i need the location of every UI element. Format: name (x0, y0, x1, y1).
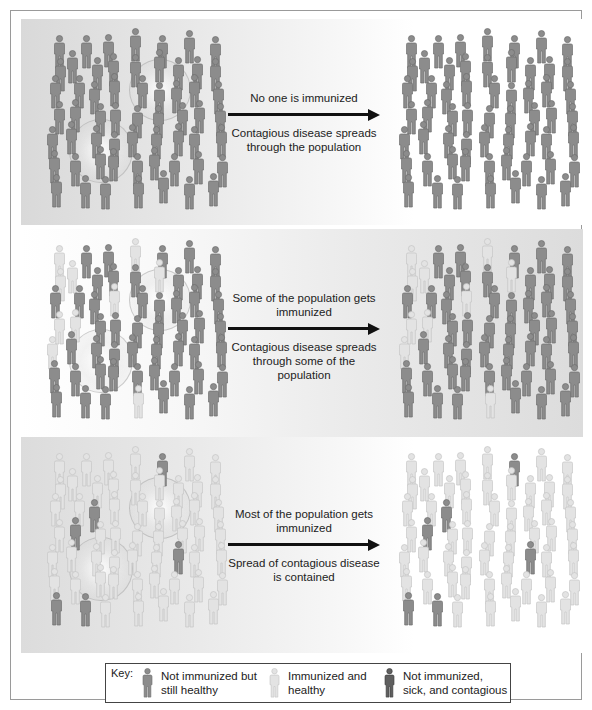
row-no-immunization: No one is immunized Contagious disease s… (21, 19, 583, 225)
person-not-immunized-icon (432, 593, 443, 627)
person-not-immunized-icon (133, 175, 144, 209)
person-immunized-icon (568, 542, 579, 576)
person-not-immunized-icon (560, 173, 571, 207)
person-not-immunized-icon (510, 170, 521, 204)
person-not-immunized-icon (100, 176, 111, 210)
person-immunized-icon (81, 453, 92, 487)
row-some-immunization: Some of the population gets immunized Co… (21, 229, 583, 443)
person-not-immunized-icon (80, 175, 91, 209)
person-not-immunized-icon (432, 175, 443, 209)
person-not-immunized-icon (81, 35, 92, 69)
person-not-immunized-icon (485, 175, 496, 209)
person-not-immunized-icon (80, 385, 91, 419)
person-immunized-icon (133, 385, 144, 419)
person-immunized-icon (418, 539, 429, 573)
person-light-gray-icon (269, 668, 280, 698)
legend-label: sick, and contagious (403, 683, 507, 697)
person-not-immunized-icon (173, 541, 184, 575)
person-immunized-icon (66, 539, 77, 573)
legend-label: Not immunized, (403, 669, 507, 683)
person-immunized-icon (506, 467, 517, 501)
legend-item-sick-contagious: Not immunized,sick, and contagious (384, 666, 507, 698)
person-not-immunized-icon (525, 123, 536, 157)
person-not-immunized-icon (489, 285, 500, 319)
person-outlined-dark-icon (384, 668, 395, 698)
person-not-immunized-icon (66, 331, 77, 365)
person-not-immunized-icon (51, 592, 62, 626)
person-not-immunized-icon (536, 386, 547, 420)
person-not-immunized-icon (403, 384, 414, 418)
person-not-immunized-icon (100, 386, 111, 420)
person-not-immunized-icon (158, 170, 169, 204)
legend: Key: Not immunized butstill healthy Immu… (105, 663, 511, 703)
arrow-right-icon (228, 323, 380, 335)
person-not-immunized-icon (432, 385, 443, 419)
caption-top: Some of the population gets immunized (225, 291, 383, 319)
caption-top: No one is immunized (250, 91, 357, 105)
person-immunized-icon (154, 259, 165, 293)
person-not-immunized-icon (433, 245, 444, 279)
arrow-right-icon (228, 109, 380, 121)
crowd-after (393, 229, 592, 443)
figure-frame: No one is immunized Contagious disease s… (10, 10, 582, 700)
person-immunized-icon (154, 467, 165, 501)
caption-bottom: Spread of contagious disease is containe… (225, 556, 383, 584)
person-immunized-icon (536, 594, 547, 628)
person-immunized-icon (433, 453, 444, 487)
person-not-immunized-icon (184, 176, 195, 210)
person-not-immunized-icon (447, 146, 458, 180)
person-not-immunized-icon (452, 386, 463, 420)
person-not-immunized-icon (208, 173, 219, 207)
person-immunized-icon (452, 594, 463, 628)
caption-top: Most of the population gets immunized (225, 507, 383, 535)
person-not-immunized-icon (506, 49, 517, 83)
legend-label: still healthy (161, 683, 257, 697)
person-not-immunized-icon (51, 384, 62, 418)
person-immunized-icon (521, 571, 532, 605)
person-immunized-icon (95, 564, 106, 598)
crowd-after (393, 19, 592, 225)
person-immunized-icon (169, 571, 180, 605)
person-immunized-icon (485, 385, 496, 419)
person-immunized-icon (485, 593, 496, 627)
person-not-immunized-icon (525, 333, 536, 367)
person-not-immunized-icon (208, 383, 219, 417)
person-not-immunized-icon (521, 363, 532, 397)
person-not-immunized-icon (169, 363, 180, 397)
person-immunized-icon (560, 591, 571, 625)
transition: Most of the population gets immunized Sp… (225, 437, 383, 653)
person-not-immunized-icon (418, 121, 429, 155)
person-not-immunized-icon (95, 146, 106, 180)
row-most-immunization: Most of the population gets immunized Sp… (21, 437, 583, 653)
person-not-immunized-icon (403, 592, 414, 626)
person-not-immunized-icon (137, 75, 148, 109)
legend-title: Key: (111, 667, 133, 679)
person-immunized-icon (510, 588, 521, 622)
crowd-before (41, 437, 241, 653)
caption-bottom: Contagious disease spreads through the p… (225, 126, 383, 154)
transition: No one is immunized Contagious disease s… (225, 19, 383, 225)
person-not-immunized-icon (560, 383, 571, 417)
person-not-immunized-icon (51, 174, 62, 208)
person-immunized-icon (100, 594, 111, 628)
crowd-after (393, 437, 592, 653)
person-not-immunized-icon (137, 285, 148, 319)
person-not-immunized-icon (66, 121, 77, 155)
person-not-immunized-icon (418, 331, 429, 365)
person-not-immunized-icon (525, 541, 536, 575)
person-not-immunized-icon (154, 49, 165, 83)
person-not-immunized-icon (521, 153, 532, 187)
legend-item-not-immunized-healthy: Not immunized butstill healthy (142, 666, 257, 698)
person-not-immunized-icon (433, 35, 444, 69)
person-not-immunized-icon (173, 123, 184, 157)
crowd-before (41, 19, 241, 225)
person-not-immunized-icon (447, 356, 458, 390)
person-not-immunized-icon (452, 176, 463, 210)
crowd-before (41, 229, 241, 443)
person-not-immunized-icon (95, 356, 106, 390)
person-not-immunized-icon (173, 333, 184, 367)
person-immunized-icon (137, 493, 148, 527)
person-immunized-icon (489, 493, 500, 527)
legend-label: Not immunized but (161, 669, 257, 683)
person-not-immunized-icon (158, 380, 169, 414)
